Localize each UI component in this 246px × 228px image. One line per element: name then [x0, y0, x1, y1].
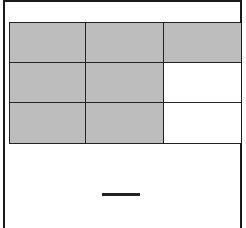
grid-cell-r3c1 [10, 103, 86, 143]
fraction-grid [9, 22, 240, 144]
grid-cell-r1c3 [164, 23, 241, 63]
grid-cell-r1c1 [10, 23, 86, 63]
grid-cell-r2c2 [86, 63, 164, 103]
grid-cell-r2c3 [164, 63, 241, 103]
grid-cell-r2c1 [10, 63, 86, 103]
fraction-bar [102, 193, 140, 196]
grid-cell-r1c2 [86, 23, 164, 63]
grid-cell-r3c3 [164, 103, 241, 143]
grid-cell-r3c2 [86, 103, 164, 143]
